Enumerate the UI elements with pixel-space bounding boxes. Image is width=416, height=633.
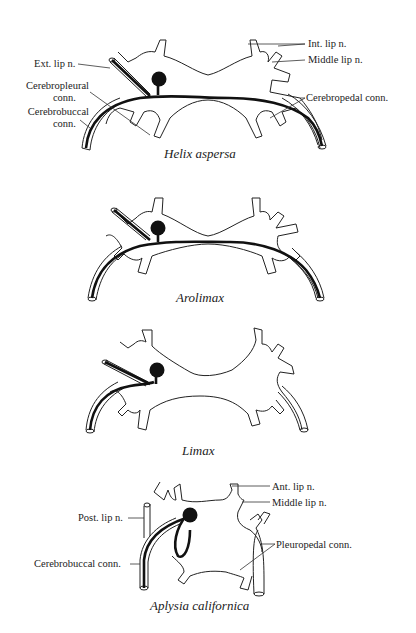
label-int-lip-n: Int. lip n.	[308, 38, 347, 49]
label-text: conn.	[53, 118, 76, 129]
label-pleuropedal-conn: Pleuropedal conn.	[276, 539, 352, 550]
label-cerebrobuccal-conn: Cerebrobuccal conn.	[34, 558, 121, 569]
label-ant-lip-n: Ant. lip n.	[272, 481, 315, 492]
helix-ganglion	[82, 40, 326, 150]
label-cerebropleural-conn-1: Cerebropleural	[19, 80, 89, 91]
caption-helix-aspersa: Helix aspersa	[164, 146, 236, 162]
label-cerebrobuccal-conn-1: Cerebrobuccal	[19, 106, 89, 117]
label-cerebropleural-conn-2: conn.	[19, 92, 89, 103]
label-ext-lip-n: Ext. lip n.	[34, 58, 75, 69]
label-post-lip-n: Post. lip n.	[78, 512, 123, 523]
label-middle-lip-n-aplysia: Middle lip n.	[272, 497, 327, 508]
label-text: conn.	[53, 92, 76, 103]
label-cerebrobuccal-conn-2: conn.	[19, 118, 89, 129]
caption-limax: Limax	[182, 443, 215, 459]
label-cerebropedal-conn: Cerebropedal conn.	[306, 92, 388, 103]
limax-ganglion	[86, 328, 308, 433]
arolimax-ganglion	[88, 198, 324, 301]
caption-arolimax: Arolimax	[176, 290, 224, 306]
caption-aplysia-californica: Aplysia californica	[150, 598, 249, 614]
aplysia-ganglion	[140, 482, 270, 596]
label-middle-lip-n: Middle lip n.	[308, 54, 363, 65]
